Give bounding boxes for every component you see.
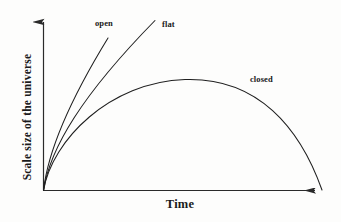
curve-open (44, 38, 109, 191)
curve-flat (44, 21, 156, 191)
x-axis-label: Time (166, 197, 194, 212)
curve-closed (44, 79, 323, 190)
curve-label-flat: flat (162, 19, 175, 29)
y-axis-label: Scale size of the universe (21, 54, 33, 181)
curve-label-open: open (95, 18, 113, 28)
curve-label-closed: closed (250, 74, 273, 84)
chart-plot-area (0, 0, 341, 222)
universe-scale-chart: Scale size of the universe Time open fla… (0, 0, 341, 222)
